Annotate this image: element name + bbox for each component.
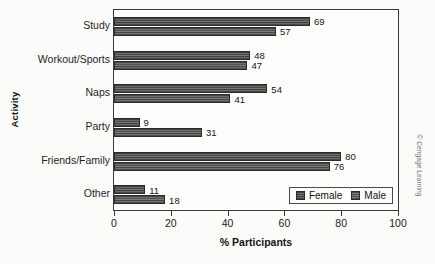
y-axis-category-label: Workout/Sports	[24, 53, 110, 65]
bar-fill	[114, 185, 145, 194]
chart-legend[interactable]: Female Male	[289, 187, 393, 204]
bar-value-label: 9	[144, 117, 149, 128]
bar-fill	[114, 94, 230, 103]
legend-swatch-female-icon	[296, 191, 305, 200]
bar-fill	[114, 152, 341, 161]
bar-group-container: 69574847544193180761118	[114, 10, 398, 210]
x-axis-tick-label: 100	[389, 217, 407, 229]
legend-item-male[interactable]: Male	[351, 190, 386, 201]
bar-fill	[114, 51, 250, 60]
bar-male: 31	[114, 128, 202, 137]
y-axis-category-label: Friends/Family	[24, 154, 110, 166]
bar-male: 18	[114, 195, 165, 204]
x-axis-tick-label: 80	[335, 217, 347, 229]
x-axis-tick-label: 0	[111, 217, 117, 229]
bar-female: 9	[114, 118, 140, 127]
bar-fill	[114, 84, 267, 93]
x-axis-tick	[284, 211, 285, 216]
bar-value-label: 47	[251, 60, 262, 71]
chart-figure: Activity StudyWorkout/SportsNapsPartyFri…	[0, 0, 435, 264]
x-axis-tick	[171, 211, 172, 216]
bar-value-label: 76	[334, 161, 345, 172]
bar-female: 80	[114, 152, 341, 161]
bar-female: 48	[114, 51, 250, 60]
legend-label-male: Male	[364, 190, 386, 201]
x-axis-tick-label: 40	[222, 217, 234, 229]
bar-male: 41	[114, 94, 230, 103]
x-axis: 020406080100	[113, 211, 399, 237]
bar-value-label: 31	[206, 127, 217, 138]
bar-male: 57	[114, 27, 276, 36]
bar-fill	[114, 118, 140, 127]
bar-value-label: 54	[271, 83, 282, 94]
copyright-notice: © Cengage Learning	[416, 135, 423, 213]
bar-fill	[114, 128, 202, 137]
x-axis-tick-label: 60	[279, 217, 291, 229]
bar-male: 76	[114, 162, 330, 171]
bar-fill	[114, 17, 310, 26]
bar-fill	[114, 162, 330, 171]
y-axis-category-label: Party	[24, 120, 110, 132]
bar-value-label: 18	[169, 194, 180, 205]
y-axis-category-label: Naps	[24, 86, 110, 98]
legend-item-female[interactable]: Female	[296, 190, 342, 201]
bar-value-label: 80	[345, 151, 356, 162]
y-axis-title: Activity	[9, 80, 20, 140]
plot-area: 69574847544193180761118 Female Male	[113, 9, 399, 211]
bar-value-label: 41	[234, 93, 245, 104]
x-axis-tick	[398, 211, 399, 216]
x-axis-tick	[114, 211, 115, 216]
bar-value-label: 57	[280, 26, 291, 37]
bar-female: 69	[114, 17, 310, 26]
x-axis-tick	[228, 211, 229, 216]
bar-value-label: 11	[149, 184, 159, 195]
bar-female: 11	[114, 185, 145, 194]
legend-label-female: Female	[309, 190, 342, 201]
bar-female: 54	[114, 84, 267, 93]
bar-fill	[114, 27, 276, 36]
x-axis-title: % Participants	[113, 236, 399, 248]
x-axis-tick-label: 20	[165, 217, 177, 229]
y-axis-category-labels: StudyWorkout/SportsNapsPartyFriends/Fami…	[24, 10, 110, 210]
bar-value-label: 69	[314, 16, 325, 27]
page-scan-artifact	[8, 254, 428, 263]
y-axis-category-label: Other	[24, 187, 110, 199]
legend-swatch-male-icon	[351, 191, 360, 200]
bar-fill	[114, 61, 247, 70]
bar-fill	[114, 195, 165, 204]
bar-male: 47	[114, 61, 247, 70]
x-axis-tick	[341, 211, 342, 216]
y-axis-category-label: Study	[24, 19, 110, 31]
